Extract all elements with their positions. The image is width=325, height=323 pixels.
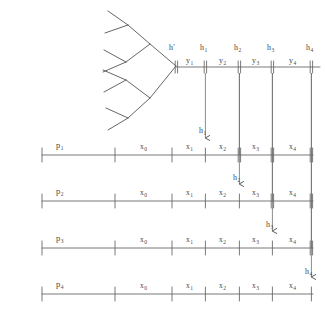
- segment-label-p1-x1: x1: [186, 143, 193, 151]
- arr-h3-sub: 3: [271, 224, 274, 230]
- arr-h1-base: h: [199, 126, 203, 135]
- y1-base: y: [186, 56, 190, 65]
- arr-h3-base: h: [266, 220, 270, 229]
- arrival-label-p4-h4: h4: [305, 268, 312, 276]
- segment-label-p3-x4: x4: [289, 236, 296, 244]
- diagram-canvas: h' y1 y2 y3 y4 h1 h2 h3 h4 p1 x0 x1 x2 x…: [0, 0, 325, 323]
- x4-sub: 4: [293, 192, 296, 198]
- interval-label-y1: y1: [186, 57, 193, 65]
- p3-base: p: [56, 233, 60, 243]
- x0-sub: 0: [144, 239, 147, 245]
- segment-label-p4-x1: x1: [186, 282, 193, 290]
- segment-label-p1-x2: x2: [219, 143, 226, 151]
- segment-label-p2-x1: x1: [186, 189, 193, 197]
- y3-sub: 3: [257, 60, 260, 66]
- x1-sub: 1: [190, 285, 193, 291]
- process-label-p3: p3: [56, 234, 63, 243]
- x3-sub: 3: [256, 285, 259, 291]
- segment-label-p3-x2: x2: [219, 236, 226, 244]
- p2-sub: 2: [61, 191, 64, 197]
- h4-sub: 4: [311, 47, 314, 53]
- x2-sub: 2: [223, 285, 226, 291]
- arr-h2-base: h: [233, 173, 237, 182]
- x4-sub: 4: [293, 239, 296, 245]
- x3-sub: 3: [256, 192, 259, 198]
- h1-base: h: [200, 43, 204, 52]
- x2-sub: 2: [223, 146, 226, 152]
- diagram-vector-layer: [0, 0, 325, 323]
- segment-label-p4-x2: x2: [219, 282, 226, 290]
- p1-sub: 1: [61, 145, 64, 151]
- binary-history-tree: [103, 11, 176, 130]
- p1-base: p: [56, 140, 60, 150]
- p2-base: p: [56, 186, 60, 196]
- interval-label-y3: y3: [252, 57, 259, 65]
- h2-base: h: [234, 43, 238, 52]
- process-line-4: [42, 287, 313, 301]
- y3-base: y: [252, 56, 256, 65]
- segment-label-p2-x2: x2: [219, 189, 226, 197]
- segment-label-p4-x0: x0: [140, 282, 147, 290]
- mark-label-h3: h3: [267, 44, 274, 52]
- arr-h4-base: h: [305, 267, 309, 276]
- x0-sub: 0: [144, 285, 147, 291]
- x2-sub: 2: [223, 192, 226, 198]
- y2-base: y: [219, 56, 223, 65]
- x3-sub: 3: [256, 239, 259, 245]
- segment-label-p2-x3: x3: [252, 189, 259, 197]
- x0-sub: 0: [144, 192, 147, 198]
- segment-label-p4-x3: x3: [252, 282, 259, 290]
- process-line-3: [42, 241, 313, 255]
- y2-sub: 2: [224, 60, 227, 66]
- y1-sub: 1: [191, 60, 194, 66]
- segment-label-p1-x0: x0: [140, 143, 147, 151]
- process-label-p4: p4: [56, 280, 63, 289]
- x1-sub: 1: [190, 239, 193, 245]
- segment-label-p3-x0: x0: [140, 236, 147, 244]
- arrival-label-p3-h3: h3: [266, 221, 273, 229]
- p4-base: p: [56, 279, 60, 289]
- segment-label-p1-x4: x4: [289, 143, 296, 151]
- h3-base: h: [267, 43, 271, 52]
- mark-label-h2: h2: [234, 44, 241, 52]
- h3-sub: 3: [272, 47, 275, 53]
- y4-base: y: [289, 56, 293, 65]
- segment-label-p3-x1: x1: [186, 236, 193, 244]
- p4-sub: 4: [61, 284, 64, 290]
- x0-sub: 0: [144, 146, 147, 152]
- top-timeline: [175, 61, 320, 73]
- interval-label-y2: y2: [219, 57, 226, 65]
- p3-sub: 3: [61, 238, 64, 244]
- mark-label-h1: h1: [200, 44, 207, 52]
- x1-sub: 1: [190, 146, 193, 152]
- h2-sub: 2: [239, 47, 242, 53]
- h1-sub: 1: [205, 47, 208, 53]
- h4-base: h: [306, 43, 310, 52]
- x4-sub: 4: [293, 285, 296, 291]
- tree-root-label: h': [169, 44, 175, 52]
- arr-h1-sub: 1: [204, 130, 207, 136]
- process-label-p2: p2: [56, 187, 63, 196]
- y4-sub: 4: [294, 60, 297, 66]
- x3-sub: 3: [256, 146, 259, 152]
- process-label-p1: p1: [56, 141, 63, 150]
- arr-h4-sub: 4: [310, 271, 313, 277]
- arr-h2-sub: 2: [238, 177, 241, 183]
- x1-sub: 1: [190, 192, 193, 198]
- arrival-label-p1-h1: h1: [199, 127, 206, 135]
- mark-label-h4: h4: [306, 44, 313, 52]
- segment-label-p2-x0: x0: [140, 189, 147, 197]
- segment-label-p3-x3: x3: [252, 236, 259, 244]
- x4-sub: 4: [293, 146, 296, 152]
- interval-label-y4: y4: [289, 57, 296, 65]
- segment-label-p2-x4: x4: [289, 189, 296, 197]
- arrival-label-p2-h2: h2: [233, 174, 240, 182]
- segment-label-p4-x4: x4: [289, 282, 296, 290]
- segment-label-p1-x3: x3: [252, 143, 259, 151]
- x2-sub: 2: [223, 239, 226, 245]
- history-drop-connectors: [205, 73, 311, 277]
